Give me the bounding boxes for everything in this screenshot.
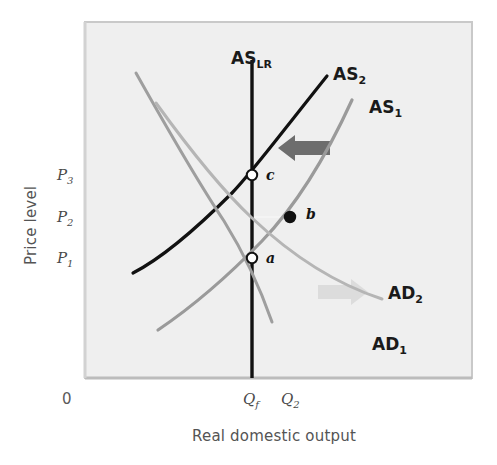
- x-tick-Q2: Q2: [281, 390, 300, 410]
- y-tick-P2: P2: [56, 208, 73, 228]
- origin-label: 0: [62, 390, 72, 408]
- y-axis-title: Price level: [22, 186, 40, 265]
- y-tick-P1: P1: [56, 249, 73, 269]
- x-tick-Qf: Qf: [243, 390, 261, 410]
- figure-container: ASLRAS2AS1AD1AD2 abc P3P2P1 QfQ2 0 Price…: [0, 0, 497, 465]
- x-axis-title: Real domestic output: [192, 427, 356, 445]
- point-label-b: b: [306, 206, 316, 222]
- point-label-a: a: [266, 250, 275, 266]
- point-b: [285, 212, 295, 222]
- y-tick-labels: P3P2P1: [56, 166, 73, 269]
- point-a: [247, 253, 257, 263]
- y-tick-P3: P3: [56, 166, 73, 186]
- as-ad-diagram: ASLRAS2AS1AD1AD2 abc P3P2P1 QfQ2 0 Price…: [0, 0, 497, 465]
- x-tick-labels: QfQ2: [243, 390, 300, 410]
- point-c: [247, 170, 257, 180]
- plot-area-background: [85, 22, 472, 378]
- point-label-c: c: [266, 167, 275, 183]
